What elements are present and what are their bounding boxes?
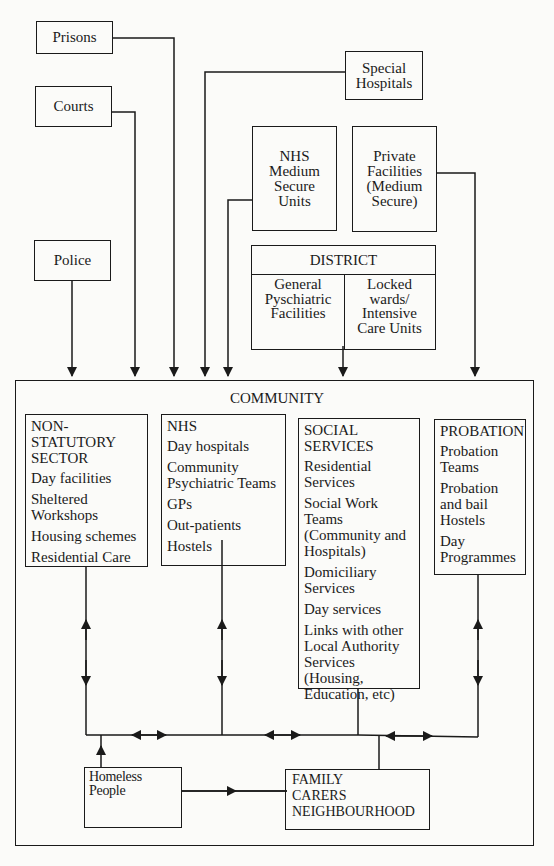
list-item: GPs [167, 496, 285, 512]
list-item: Probation Teams [440, 443, 500, 475]
social-services-box: SOCIAL SERVICES Residential Services Soc… [298, 418, 420, 689]
community-title: COMMUNITY [230, 391, 324, 406]
private-facilities-line-2: Facilities [367, 164, 422, 179]
neighbourhood-line: NEIGHBOURHOOD [292, 804, 429, 820]
special-hospitals-line-1: Special [362, 61, 406, 76]
list-item: Housing schemes [31, 528, 147, 544]
social-services-heading-line-1: SOCIAL [304, 422, 358, 438]
list-item: Hostels [167, 538, 285, 554]
nhs-medium-secure-box: NHS Medium Secure Units [252, 126, 337, 231]
carers-line: CARERS [292, 788, 429, 804]
district-left-line-2: Pyschiatric [252, 292, 344, 307]
special-hospitals-line-2: Hospitals [356, 76, 413, 91]
nhs-medium-secure-line-2: Medium [269, 164, 320, 179]
courts-box: Courts [35, 86, 112, 127]
family-line: FAMILY [292, 772, 429, 788]
private-facilities-line-1: Private [373, 149, 416, 164]
family-carers-label: FAMILY CARERS NEIGHBOURHOOD [286, 770, 429, 820]
social-services-heading-line-2: SERVICES [304, 438, 374, 454]
referral-pathways-diagram: Prisons Courts Police Special Hospitals … [0, 0, 554, 866]
non-statutory-heading-line-2: SECTOR [31, 450, 88, 466]
nhs-medium-secure-line-4: Units [278, 194, 311, 209]
private-facilities-line-3: (Medium [367, 179, 423, 194]
district-right-line-1: Locked [344, 277, 435, 292]
homeless-people-box: Homeless People [84, 767, 182, 828]
private-facilities-box: Private Facilities (Medium Secure) [352, 126, 437, 232]
probation-box: PROBATION Probation Teams Probation and … [434, 419, 526, 575]
non-statutory-heading: NON-STATUTORY SECTOR [31, 418, 147, 466]
district-left-line-1: General [252, 277, 344, 292]
district-right-line-4: Care Units [344, 321, 435, 336]
prisons-box: Prisons [36, 21, 113, 54]
list-item: Day facilities [31, 470, 147, 486]
district-title: DISTRICT [252, 246, 435, 275]
list-item: Residential Care [31, 549, 147, 565]
district-right-line-2: wards/ [344, 292, 435, 307]
probation-heading: PROBATION [440, 423, 525, 439]
list-item: Day Programmes [440, 533, 500, 565]
list-item: Social Work Teams (Community and Hospita… [304, 495, 418, 559]
list-item: Domiciliary Services [304, 564, 394, 596]
homeless-people-label: Homeless People [85, 768, 181, 798]
district-left-line-3: Facilities [252, 306, 344, 321]
special-hospitals-box: Special Hospitals [345, 51, 423, 100]
courts-label: Courts [53, 99, 93, 114]
prisons-label: Prisons [52, 30, 96, 45]
nhs-medium-secure-line-1: NHS [279, 149, 309, 164]
district-locked-wards: Locked wards/ Intensive Care Units [344, 274, 435, 349]
district-general-psychiatric: General Pyschiatric Facilities [252, 274, 345, 349]
list-item: Community Psychiatric Teams [167, 459, 282, 491]
list-item: Residential Services [304, 458, 394, 490]
nhs-community-box: NHS Day hospitals Community Psychiatric … [161, 414, 286, 566]
nhs-heading: NHS [167, 418, 285, 434]
list-item: Sheltered Workshops [31, 491, 111, 523]
list-item: Probation and bail Hostels [440, 480, 500, 528]
district-right-line-3: Intensive [344, 306, 435, 321]
non-statutory-sector-box: NON-STATUTORY SECTOR Day facilities Shel… [25, 414, 148, 567]
nhs-medium-secure-line-3: Secure [274, 179, 315, 194]
non-statutory-heading-line-1: NON-STATUTORY [31, 418, 116, 450]
social-services-heading: SOCIAL SERVICES [304, 422, 419, 454]
list-item: Day hospitals [167, 438, 285, 454]
police-label: Police [54, 253, 92, 268]
police-box: Police [34, 240, 111, 281]
district-box: DISTRICT General Pyschiatric Facilities … [251, 245, 436, 350]
list-item: Out-patients [167, 517, 285, 533]
private-facilities-line-4: Secure) [372, 194, 418, 209]
family-carers-box: FAMILY CARERS NEIGHBOURHOOD [285, 769, 430, 830]
list-item: Links with other Local Authority Service… [304, 622, 404, 702]
list-item: Day services [304, 601, 419, 617]
